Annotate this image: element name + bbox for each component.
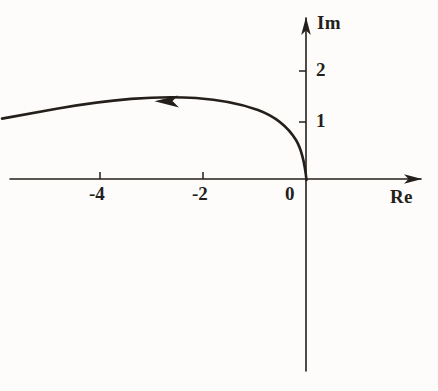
imaginary-axis-label: Im [317, 12, 341, 34]
locus-curve [2, 97, 307, 180]
tick-label-real-minus4: -4 [89, 183, 105, 205]
tick-label-real-minus2: -2 [192, 183, 208, 205]
tick-label-imag-1: 1 [316, 110, 326, 132]
real-axis-label: Re [390, 186, 413, 208]
tick-label-origin: 0 [285, 183, 295, 205]
plot-canvas [0, 0, 438, 391]
complex-plane-figure: Im Re -4 -2 0 1 2 [0, 0, 438, 391]
tick-label-imag-2: 2 [316, 59, 326, 81]
